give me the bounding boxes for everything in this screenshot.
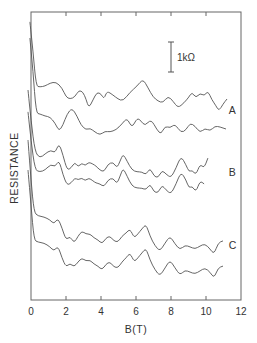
curve-label-c: C: [229, 239, 237, 251]
y-axis-label: RESISTANCE: [8, 132, 20, 203]
curve-a: [30, 38, 226, 134]
x-axis-ticks: 024681012: [28, 12, 247, 317]
axes-box: [31, 12, 241, 300]
x-tick-label: 0: [28, 306, 34, 317]
curve-label-a: A: [229, 104, 236, 116]
curve-c: [28, 140, 223, 252]
x-tick-label: 10: [200, 306, 212, 317]
x-axis-label: B(T): [125, 323, 147, 335]
resistance-curves: [28, 22, 227, 276]
curve-labels: ABC: [229, 104, 237, 251]
curve-b: [28, 90, 208, 177]
x-tick-label: 2: [63, 306, 69, 317]
plot-frame: [31, 12, 241, 300]
curve-a: [30, 22, 227, 110]
x-tick-label: 6: [133, 306, 139, 317]
chart-figure: 024681012 1kΩ ABC B(T) RESISTANCE: [0, 0, 257, 343]
curve-c: [28, 170, 223, 276]
scale-bar: [168, 42, 174, 72]
curve-b: [28, 112, 204, 193]
x-tick-label: 12: [235, 306, 247, 317]
x-tick-label: 4: [98, 306, 104, 317]
x-tick-label: 8: [168, 306, 174, 317]
curve-label-b: B: [229, 166, 236, 178]
scale-bar-label: 1kΩ: [177, 52, 196, 63]
